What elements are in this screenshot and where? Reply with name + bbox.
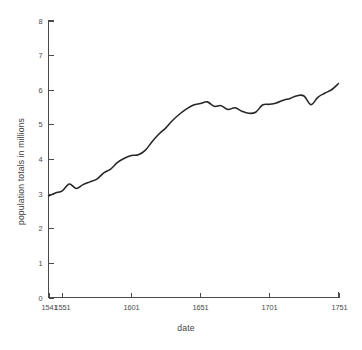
chart-figure: 012345678 154115511601165117011751 popul…: [0, 0, 362, 350]
x-tick-label: 1601: [123, 303, 139, 312]
x-axis-label: date: [177, 323, 194, 333]
population-line-series: [49, 84, 339, 197]
x-tick-labels: 154115511601165117011751: [41, 303, 347, 312]
y-tick-label: 1: [38, 259, 42, 268]
y-tick-label: 7: [38, 51, 42, 60]
x-tick-label: 1551: [54, 303, 70, 312]
y-tick-label: 3: [38, 190, 42, 199]
y-tick-label: 8: [38, 17, 42, 26]
y-axis-label: population totals in millions: [16, 118, 26, 225]
y-tick-labels: 012345678: [38, 17, 42, 303]
x-tick-marks: [50, 293, 340, 298]
y-tick-marks: [49, 22, 54, 299]
y-tick-label: 6: [38, 86, 42, 95]
line-chart-canvas: 012345678 154115511601165117011751 popul…: [0, 0, 362, 350]
x-tick-label: 1751: [331, 303, 347, 312]
x-tick-label: 1701: [261, 303, 277, 312]
y-tick-label: 4: [38, 155, 42, 164]
x-tick-label: 1651: [192, 303, 208, 312]
y-tick-label: 2: [38, 224, 42, 233]
y-tick-label: 5: [38, 120, 42, 129]
